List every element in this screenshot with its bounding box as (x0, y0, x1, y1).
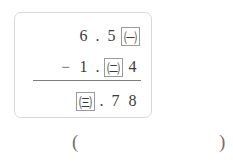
subtrahend-digit-hundredths: 4 (124, 57, 141, 77)
blank-b-box[interactable]: ㈡ (104, 58, 123, 77)
blank-c-box[interactable]: ㈢ (76, 92, 95, 111)
result-digit-tenths: 7 (107, 91, 124, 111)
minuend-digit-ones: 6 (75, 26, 92, 46)
answer-line: ( ) (0, 128, 233, 156)
result-row: ㈢ . 7 8 (15, 86, 153, 116)
minuend-blank-cell: ㈠ (120, 26, 141, 46)
minuend-row: 6 . 5 ㈠ (15, 21, 153, 51)
subtrahend-blank-cell: ㈡ (103, 57, 124, 77)
result-digit-hundredths: 8 (124, 91, 141, 111)
subtrahend-row: − 1 . ㈡ 4 (15, 52, 153, 82)
answer-open-paren: ( (72, 128, 78, 156)
subtraction-rule (33, 80, 141, 81)
blank-a-box[interactable]: ㈠ (121, 27, 140, 46)
minuend-digit-tenths: 5 (103, 26, 120, 46)
subtrahend-decimal-point: . (92, 57, 103, 77)
result-decimal-point: . (96, 91, 107, 111)
answer-close-paren: ) (219, 128, 225, 156)
problem-frame: 6 . 5 ㈠ − 1 . ㈡ 4 ㈢ . 7 8 (14, 12, 152, 118)
vertical-subtraction: 6 . 5 ㈠ − 1 . ㈡ 4 ㈢ . 7 8 (15, 13, 153, 119)
minus-operator: − (56, 57, 75, 77)
result-blank-cell: ㈢ (75, 91, 96, 111)
subtrahend-digit-ones: 1 (75, 57, 92, 77)
minuend-decimal-point: . (92, 26, 103, 46)
